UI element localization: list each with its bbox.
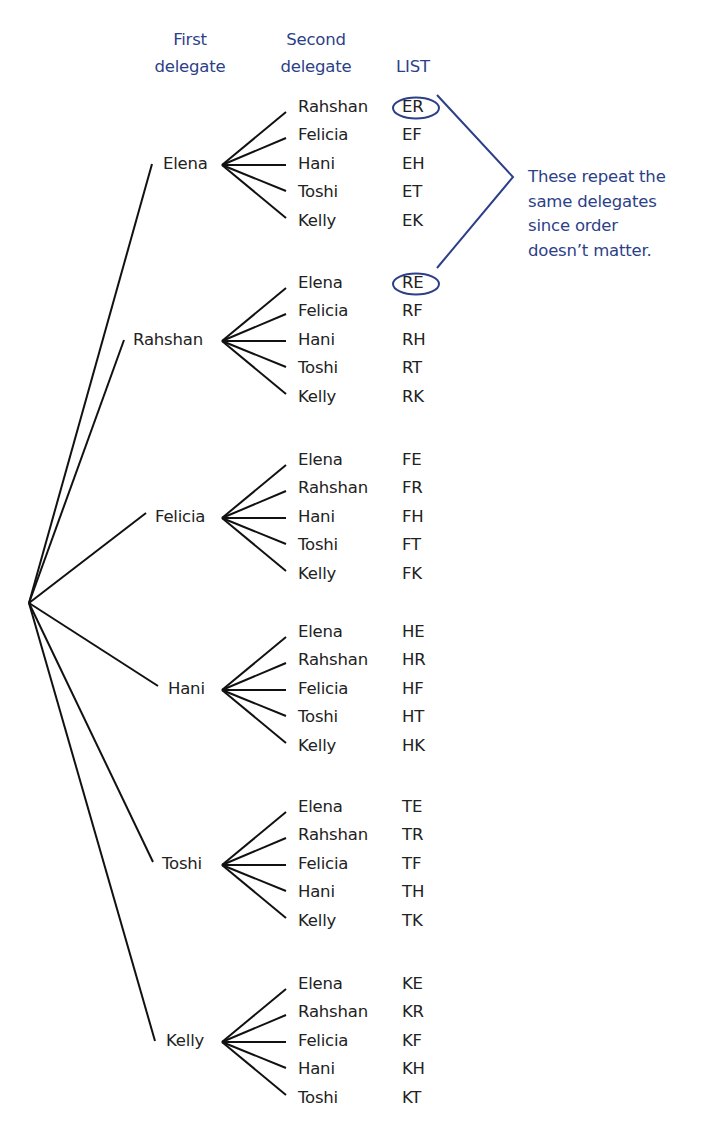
first-delegate-label: Elena [163, 154, 208, 174]
annotation-line: since order [528, 214, 707, 239]
list-pair-label: TR [402, 825, 423, 845]
list-pair-label: RK [402, 387, 424, 407]
first-delegate-label: Hani [168, 679, 205, 699]
list-pair-label: TH [402, 882, 424, 902]
tree-branch [222, 491, 286, 518]
tree-branch [222, 314, 286, 341]
second-delegate-label: Hani [298, 882, 335, 902]
second-delegate-label: Toshi [298, 535, 338, 555]
tree-branch [29, 513, 146, 603]
list-pair-label: RF [402, 301, 423, 321]
tree-branch [29, 603, 155, 1041]
header-second-line1: Second [275, 26, 357, 53]
first-delegate-label: Felicia [155, 507, 205, 527]
first-delegate-label: Rahshan [133, 330, 203, 350]
list-pair-label: RH [402, 330, 425, 350]
list-pair-label: FT [402, 535, 421, 555]
annotation-line: doesn’t matter. [528, 239, 707, 264]
tree-branch [222, 341, 286, 394]
second-delegate-label: Toshi [298, 707, 338, 727]
tree-branch [222, 865, 286, 918]
second-delegate-label: Felicia [298, 679, 348, 699]
list-pair-label: TK [402, 911, 423, 931]
second-delegate-label: Hani [298, 1059, 335, 1079]
tree-branch [222, 465, 286, 518]
tree-branch [222, 518, 286, 544]
second-delegate-label: Toshi [298, 1088, 338, 1108]
list-pair-label: FH [402, 507, 424, 527]
second-delegate-label: Elena [298, 450, 343, 470]
second-delegate-label: Elena [298, 974, 343, 994]
tree-branch [222, 1042, 286, 1068]
list-pair-label: ET [402, 182, 422, 202]
tree-branch [222, 690, 286, 716]
tree-branch [222, 112, 286, 165]
list-pair-label: HF [402, 679, 424, 699]
tree-branch [222, 165, 286, 218]
first-delegate-label: Toshi [162, 854, 202, 874]
list-pair-label: RT [402, 358, 422, 378]
second-delegate-label: Felicia [298, 1031, 348, 1051]
second-delegate-label: Hani [298, 154, 335, 174]
list-pair-label: FE [402, 450, 422, 470]
second-delegate-label: Kelly [298, 736, 336, 756]
list-pair-label: KH [402, 1059, 425, 1079]
tree-branch [222, 989, 286, 1042]
list-pair-label: ER [402, 97, 424, 117]
annotation-note: These repeat the same delegates since or… [528, 165, 707, 263]
second-delegate-label: Rahshan [298, 825, 368, 845]
header-first-line1: First [150, 26, 230, 53]
list-pair-label: FR [402, 478, 423, 498]
list-pair-label: KE [402, 974, 423, 994]
tree-branch [222, 812, 286, 865]
second-delegate-label: Elena [298, 797, 343, 817]
tree-branch [222, 138, 286, 165]
list-pair-label: HR [402, 650, 425, 670]
second-delegate-label: Kelly [298, 211, 336, 231]
tree-diagram: First delegate Second delegate LIST Elen… [0, 0, 707, 1125]
annotation-line: same delegates [528, 190, 707, 215]
tree-branch [29, 164, 152, 603]
second-delegate-label: Felicia [298, 854, 348, 874]
second-delegate-label: Kelly [298, 911, 336, 931]
list-pair-label: TF [402, 854, 421, 874]
tree-branch [222, 518, 286, 571]
second-delegate-label: Elena [298, 622, 343, 642]
tree-branch [222, 865, 286, 891]
tree-branch [29, 340, 124, 603]
second-delegate-label: Rahshan [298, 1002, 368, 1022]
second-delegate-label: Felicia [298, 125, 348, 145]
list-pair-label: RE [402, 273, 424, 293]
second-delegate-label: Elena [298, 273, 343, 293]
list-pair-label: HT [402, 707, 424, 727]
list-pair-label: TE [402, 797, 422, 817]
second-delegate-label: Felicia [298, 301, 348, 321]
list-pair-label: EK [402, 211, 423, 231]
header-first-line2: delegate [150, 53, 230, 80]
list-pair-label: HK [402, 736, 425, 756]
list-pair-label: KR [402, 1002, 424, 1022]
list-pair-label: FK [402, 564, 422, 584]
tree-branch [222, 1042, 286, 1095]
second-delegate-label: Kelly [298, 387, 336, 407]
second-delegate-label: Rahshan [298, 478, 368, 498]
first-delegate-label: Kelly [166, 1031, 204, 1051]
header-second-delegate: Second delegate [275, 26, 357, 80]
tree-branch [222, 288, 286, 341]
second-delegate-label: Hani [298, 507, 335, 527]
second-delegate-label: Hani [298, 330, 335, 350]
list-pair-label: EF [402, 125, 422, 145]
header-first-delegate: First delegate [150, 26, 230, 80]
header-second-line2: delegate [275, 53, 357, 80]
list-pair-label: EH [402, 154, 424, 174]
tree-branch [222, 341, 286, 367]
tree-branch [222, 690, 286, 743]
tree-branch [222, 1015, 286, 1042]
annotation-line: These repeat the [528, 165, 707, 190]
second-delegate-label: Toshi [298, 358, 338, 378]
list-pair-label: KF [402, 1031, 422, 1051]
second-delegate-label: Kelly [298, 564, 336, 584]
list-pair-label: KT [402, 1088, 421, 1108]
header-list: LIST [390, 53, 436, 80]
list-pair-label: HE [402, 622, 424, 642]
